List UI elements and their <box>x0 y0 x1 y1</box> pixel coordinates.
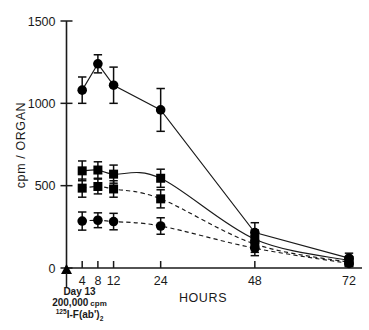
annotation-isotope-subscript: 2 <box>100 315 104 322</box>
y-axis-label: cpm / ORGAN <box>14 102 28 188</box>
series-errorbars-group <box>78 55 353 267</box>
marker-series-2-square-solid-12 <box>109 170 118 179</box>
injection-annotation: Day 13 200,000cpm 125I-F(ab')2 <box>52 264 107 322</box>
x-axis-label: HOURS <box>179 291 227 305</box>
marker-series-3-square-dashed-4 <box>78 184 87 193</box>
chart-canvas: 050010001500 4812244872 cpm / ORGAN HOUR… <box>0 0 369 330</box>
marker-series-1-circle-solid-8 <box>93 59 103 69</box>
marker-series-1-circle-solid-12 <box>109 80 119 90</box>
marker-series-4-circle-dashed-8 <box>93 215 103 225</box>
x-tick-label-12: 12 <box>107 274 121 288</box>
series-lines-group <box>82 64 349 264</box>
line-series-1-circle-solid <box>82 64 349 258</box>
marker-series-4-circle-dashed-48 <box>250 243 260 253</box>
annotation-isotope-main: I-F(ab') <box>67 309 100 320</box>
figure-container: 050010001500 4812244872 cpm / ORGAN HOUR… <box>0 0 369 330</box>
y-axis-tick-labels: 050010001500 <box>28 15 56 276</box>
marker-series-1-circle-solid-4 <box>77 85 87 95</box>
x-tick-label-48: 48 <box>248 274 262 288</box>
injection-triangle-icon <box>61 264 72 274</box>
y-tick-label-0: 0 <box>49 262 56 276</box>
axes-group: 050010001500 4812244872 <box>28 15 362 289</box>
annotation-cpm-value: 200,000 <box>52 297 89 308</box>
marker-series-4-circle-dashed-24 <box>156 221 166 231</box>
y-tick-label-1500: 1500 <box>28 15 56 29</box>
marker-series-3-square-dashed-8 <box>93 182 102 191</box>
annotation-cpm-line: 200,000cpm <box>52 297 107 308</box>
x-tick-label-72: 72 <box>342 274 356 288</box>
marker-series-4-circle-dashed-4 <box>77 216 87 226</box>
annotation-day-line: Day 13 <box>63 286 96 297</box>
marker-series-4-circle-dashed-12 <box>109 217 119 227</box>
annotation-tracer-line: 125I-F(ab')2 <box>56 308 104 322</box>
marker-series-1-circle-solid-24 <box>156 105 166 115</box>
marker-series-2-square-solid-24 <box>156 174 165 183</box>
x-axis-ticks <box>82 261 349 268</box>
x-tick-label-24: 24 <box>154 274 168 288</box>
annotation-isotope-superscript: 125 <box>56 308 67 315</box>
marker-series-4-circle-dashed-72 <box>344 259 354 269</box>
marker-series-2-square-solid-8 <box>93 166 102 175</box>
marker-series-3-square-dashed-24 <box>156 194 165 203</box>
marker-series-2-square-solid-4 <box>78 166 87 175</box>
line-series-3-square-dashed <box>82 186 349 262</box>
annotation-cpm-unit: cpm <box>90 299 106 308</box>
x-axis-tick-labels: 4812244872 <box>79 274 356 288</box>
y-tick-label-500: 500 <box>35 179 56 193</box>
y-tick-label-1000: 1000 <box>28 97 56 111</box>
marker-series-3-square-dashed-12 <box>109 184 118 193</box>
series-markers-group <box>77 59 353 268</box>
